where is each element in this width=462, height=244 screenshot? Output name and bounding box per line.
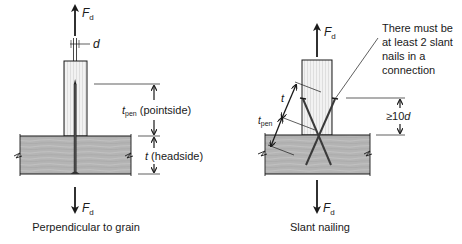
force-label-top: Fd: [324, 25, 336, 41]
timber-post: [302, 60, 332, 135]
timber-beam: [14, 134, 133, 176]
spacing-10d-label: ≥10d: [386, 110, 411, 122]
diameter-indicator: [70, 38, 90, 62]
caption-perpendicular: Perpendicular to grain: [32, 221, 140, 233]
left-panel-perpendicular: Fd d: [14, 6, 203, 233]
force-label-top: Fd: [82, 6, 94, 22]
t-headside-label: t (headside): [145, 150, 203, 162]
tpen-slant-label: tpen: [258, 115, 273, 128]
force-label-bottom: Fd: [323, 201, 335, 217]
right-panel-slant: Fd There must be at least 2 slant na: [258, 22, 456, 233]
diameter-label: d: [93, 37, 100, 51]
note-leader-line: [335, 38, 378, 99]
nail-connection-diagram: Fd d: [0, 0, 462, 244]
caption-slant: Slant nailing: [290, 221, 350, 233]
tpen-pointside-label: tpen (pointside): [122, 104, 191, 118]
slant-note: There must be at least 2 slant nails in …: [382, 22, 456, 76]
t-slant-label: t: [281, 92, 285, 104]
force-label-bottom: Fd: [82, 201, 94, 217]
timber-beam: [258, 133, 372, 176]
